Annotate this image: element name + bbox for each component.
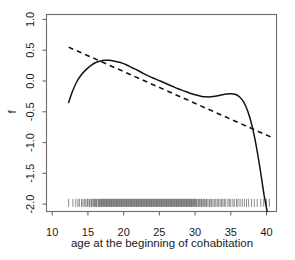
y-tick-label: -1.0: [24, 133, 36, 152]
x-tick-label: 10: [46, 226, 58, 238]
x-tick-label: 40: [260, 226, 272, 238]
x-axis-title: age at the beginning of cohabitation: [71, 237, 253, 249]
y-tick-label: 0.0: [24, 73, 36, 88]
x-tick-label: 25: [153, 226, 165, 238]
x-tick-label: 15: [82, 226, 94, 238]
y-tick-label: -1.5: [24, 164, 36, 183]
plot-background: [0, 0, 295, 260]
y-tick-label: -2.0: [24, 195, 36, 214]
x-tick-label: 35: [225, 226, 237, 238]
scatter-smoother-plot: 1.00.50.0-0.5-1.0-1.5-2.0 10152025303540…: [0, 0, 295, 260]
x-tick-label: 20: [118, 226, 130, 238]
y-tick-label: 1.0: [24, 12, 36, 27]
y-tick-label: -0.5: [24, 102, 36, 121]
x-tick-label: 30: [189, 226, 201, 238]
y-tick-label: 0.5: [24, 43, 36, 58]
chart-figure: 1.00.50.0-0.5-1.0-1.5-2.0 10152025303540…: [0, 0, 295, 260]
